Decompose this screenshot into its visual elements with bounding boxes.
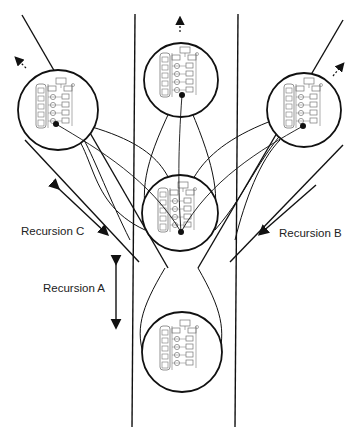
node-right bbox=[267, 73, 341, 147]
recursion-c-label: Recursion C bbox=[21, 225, 84, 237]
recursion-diagram bbox=[0, 0, 359, 437]
node-left bbox=[18, 70, 98, 150]
node-bottom bbox=[142, 312, 222, 392]
recursion-a-label: Recursion A bbox=[43, 282, 105, 294]
recursion-b-label: Recursion B bbox=[279, 227, 342, 239]
